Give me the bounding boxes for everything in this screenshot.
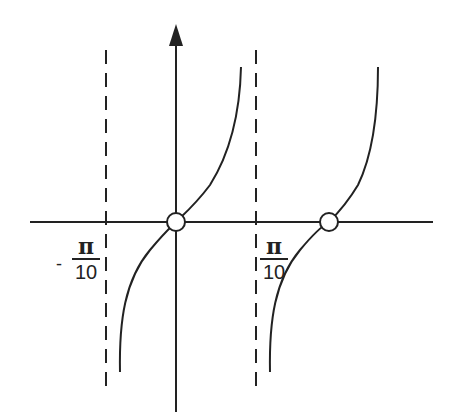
zero-marker-right (320, 213, 338, 231)
graph-canvas (0, 0, 452, 418)
zero-marker-origin (167, 213, 185, 231)
left-asymptote-label: - π 10 (58, 236, 102, 282)
left-denominator: 10 (75, 262, 97, 282)
fraction-bar (72, 258, 100, 260)
right-asymptote-label: π 10 (258, 236, 290, 282)
right-denominator: 10 (263, 262, 285, 282)
fraction-bar (260, 258, 288, 260)
left-numerator: π (78, 236, 94, 256)
y-axis-arrow-icon (169, 24, 183, 46)
minus-sign: - (56, 254, 62, 275)
right-numerator: π (266, 236, 282, 256)
